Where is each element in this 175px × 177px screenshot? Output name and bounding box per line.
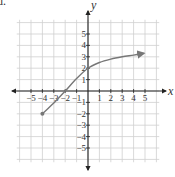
axes [12, 11, 166, 170]
x-tick-label: −3 [49, 93, 59, 103]
y-axis-label: y [90, 0, 97, 12]
y-tick-label: 3 [82, 52, 87, 62]
x-tick-label: 3 [120, 93, 125, 103]
x-tick-label: −5 [26, 93, 36, 103]
curve-path [42, 53, 143, 113]
y-tick-label: 4 [82, 40, 87, 50]
closed-endpoint-dot [40, 112, 44, 116]
y-tick-label: −1 [76, 97, 86, 107]
function-curve [40, 53, 143, 115]
x-tick-label: 4 [131, 93, 136, 103]
y-tick-label: −5 [76, 143, 86, 153]
x-tick-label: 1 [97, 93, 102, 103]
x-tick-label: 5 [143, 93, 148, 103]
x-tick-label: −4 [38, 93, 48, 103]
y-tick-label: −2 [76, 109, 86, 119]
coordinate-graph: −5−4−3−2−112345−5−4−3−2−112345 x y [0, 0, 175, 177]
y-tick-label: −4 [76, 132, 86, 142]
x-axis-label: x [167, 84, 174, 98]
x-tick-label: 2 [109, 93, 114, 103]
y-tick-label: −3 [76, 120, 86, 130]
y-tick-label: 5 [82, 29, 87, 39]
y-tick-label: 1 [82, 75, 87, 85]
